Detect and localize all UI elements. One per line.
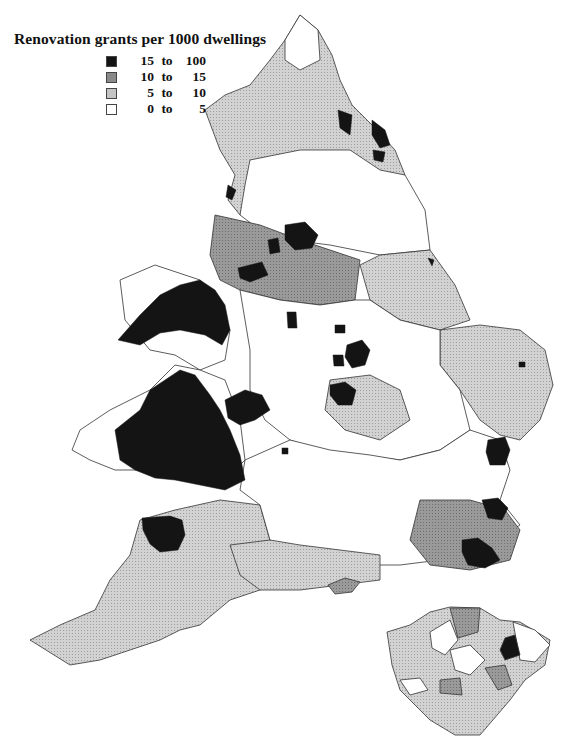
map-title: Renovation grants per 1000 dwellings (14, 30, 266, 48)
choropleth-map (0, 0, 568, 750)
legend-to-word: to (157, 101, 177, 117)
region-lancs-2 (268, 238, 280, 254)
region-midlands-1 (287, 312, 297, 328)
legend-item-15-100: 15 to 100 (106, 53, 206, 69)
legend-item-5-10: 5 to 10 (106, 85, 206, 101)
legend-to: 15 (180, 69, 206, 85)
region-north-white (285, 15, 320, 70)
legend-swatch (106, 56, 117, 67)
region-midlands-2 (335, 325, 345, 333)
legend-to-word: to (157, 85, 177, 101)
region-essex (486, 437, 510, 465)
legend-to: 100 (180, 53, 206, 69)
london-mid-southwest (440, 678, 462, 695)
legend-from: 5 (124, 85, 154, 101)
map-legend: 15 to 100 10 to 15 5 to 10 0 to 5 (106, 53, 206, 117)
legend-to-word: to (157, 53, 177, 69)
region-midlands-3 (333, 355, 344, 366)
region-norfolk-dot (519, 362, 525, 367)
legend-swatch (106, 72, 117, 83)
region-gloucs-dot (282, 448, 288, 454)
legend-swatch (106, 104, 117, 115)
legend-swatch (106, 88, 117, 99)
legend-to-word: to (157, 69, 177, 85)
london-inset (387, 607, 550, 735)
region-teesside (373, 150, 385, 162)
legend-item-0-5: 0 to 5 (106, 101, 206, 117)
legend-item-10-15: 10 to 15 (106, 69, 206, 85)
legend-from: 15 (124, 53, 154, 69)
legend-to: 5 (180, 101, 206, 117)
legend-from: 0 (124, 101, 154, 117)
legend-from: 10 (124, 69, 154, 85)
legend-to: 10 (180, 85, 206, 101)
